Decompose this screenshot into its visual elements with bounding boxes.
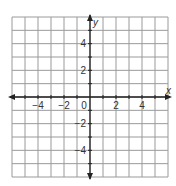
origin-label: 0 bbox=[81, 100, 87, 111]
y-tick-label: 4 bbox=[80, 38, 86, 49]
y-tick-label: −2 bbox=[75, 118, 87, 129]
x-tick-label: −2 bbox=[58, 100, 70, 111]
y-tick-label: −4 bbox=[75, 145, 87, 156]
coordinate-plane: −4−224042−2−4 x y bbox=[0, 0, 176, 186]
y-tick-label: 2 bbox=[80, 65, 86, 76]
x-axis-label: x bbox=[165, 85, 172, 96]
axes bbox=[8, 14, 172, 180]
x-tick-label: −4 bbox=[32, 100, 44, 111]
x-tick-label: 4 bbox=[139, 100, 145, 111]
y-axis-label: y bbox=[92, 17, 99, 28]
x-tick-label: 2 bbox=[113, 100, 119, 111]
